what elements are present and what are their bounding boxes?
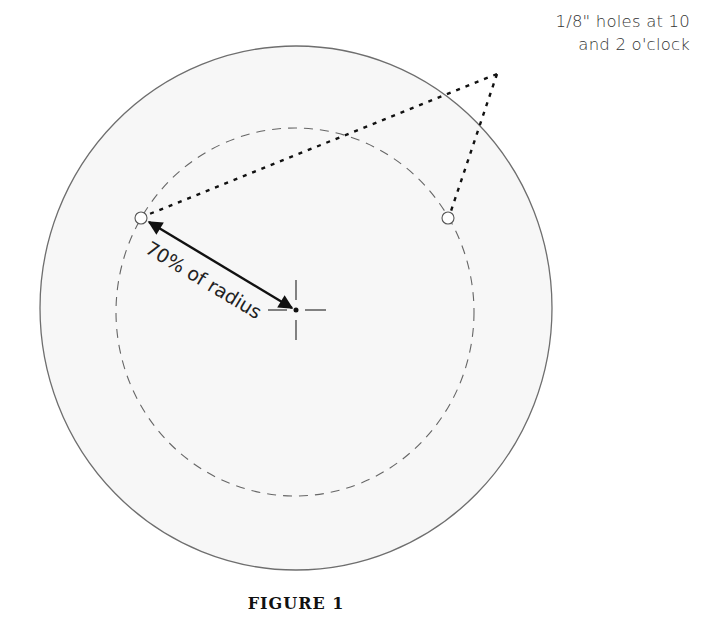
callout-line-1: 1/8" holes at 10: [500, 10, 690, 33]
holes-callout: 1/8" holes at 10 and 2 o'clock: [500, 10, 690, 56]
hole-10-oclock: [135, 212, 147, 224]
circle-template-diagram: 70% of radius: [0, 0, 701, 619]
figure-caption: FIGURE 1: [0, 594, 592, 613]
hole-2-oclock: [442, 212, 454, 224]
center-point: [294, 308, 299, 313]
callout-line-2: and 2 o'clock: [500, 33, 690, 56]
